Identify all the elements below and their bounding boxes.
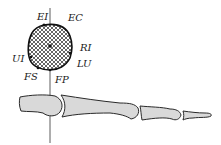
label-fp: FP	[55, 75, 69, 85]
label-ec: EC	[68, 13, 83, 23]
label-ri: RI	[80, 43, 91, 53]
middle-phalanx-bone	[140, 106, 181, 120]
finger-bones-lateral	[19, 95, 211, 120]
center-dot	[48, 44, 52, 48]
proximal-phalanx-bone	[61, 95, 139, 119]
label-lu: LU	[77, 59, 92, 69]
tendon-cross-section	[28, 24, 72, 72]
metacarpal-head-bone	[19, 95, 62, 116]
label-fs: FS	[24, 72, 38, 82]
label-ei: EI	[37, 12, 48, 22]
label-ui: UI	[12, 54, 24, 64]
distal-phalanx-bone	[183, 111, 211, 120]
